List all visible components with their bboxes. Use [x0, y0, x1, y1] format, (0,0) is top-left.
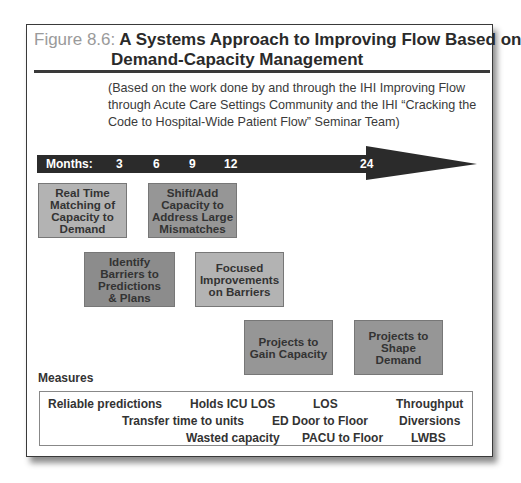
timeline-label: Months:: [46, 157, 93, 171]
measure-item: Transfer time to units: [122, 414, 244, 428]
timeline-tick: 24: [360, 157, 373, 171]
timeline-tick: 6: [153, 157, 160, 171]
timeline-tick: 9: [189, 157, 196, 171]
measure-item: PACU to Floor: [302, 431, 383, 445]
figure-label: Figure 8.6:: [34, 30, 115, 49]
title-rule: [34, 70, 490, 73]
box-real-time-matching: Real TimeMatching ofCapacity toDemand: [38, 183, 127, 238]
measure-item: LOS: [313, 397, 338, 411]
box-focused-improvements: FocusedImprovementson Barriers: [195, 252, 284, 307]
title-line-1: A Systems Approach to Improving Flow Bas…: [119, 30, 521, 49]
timeline-tick: 12: [224, 157, 237, 171]
measures-label: Measures: [38, 371, 93, 385]
box-shape-demand: Projects toShapeDemand: [354, 320, 443, 375]
timeline-tick: 3: [116, 157, 123, 171]
measure-item: Holds ICU LOS: [190, 397, 275, 411]
measure-item: Reliable predictions: [48, 397, 162, 411]
box-identify-barriers: IdentifyBarriers toPredictions& Plans: [84, 252, 175, 307]
box-gain-capacity: Projects toGain Capacity: [244, 320, 333, 375]
measure-item: Throughput: [396, 397, 463, 411]
measure-item: Wasted capacity: [186, 431, 280, 445]
title-line-2: Demand-Capacity Management: [111, 50, 363, 70]
timeline-arrow-icon: [37, 146, 477, 182]
figure-title: Figure 8.6: A Systems Approach to Improv…: [34, 30, 521, 50]
measure-item: Diversions: [399, 414, 460, 428]
measure-item: ED Door to Floor: [272, 414, 368, 428]
box-shift-add-capacity: Shift/AddCapacity toAddress LargeMismatc…: [148, 183, 237, 238]
measure-item: LWBS: [411, 431, 446, 445]
figure-subtitle: (Based on the work done by and through t…: [108, 80, 488, 131]
